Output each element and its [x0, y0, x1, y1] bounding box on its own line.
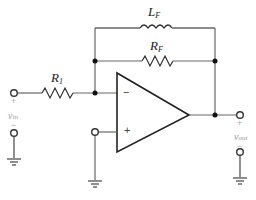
junction-dot: [93, 91, 98, 96]
rf-label: RF: [150, 38, 163, 54]
r1-label: R1: [51, 70, 63, 86]
noninverting-sign: +: [124, 124, 130, 136]
junction-dot: [93, 59, 98, 64]
inverting-sign: −: [123, 86, 129, 98]
opamp-triangle: [117, 73, 189, 152]
ground-icon: [88, 181, 102, 187]
inductor-lf: [95, 25, 215, 28]
ground-icon: [233, 155, 247, 184]
vout-plus: +: [237, 118, 242, 128]
junction-dot: [213, 59, 218, 64]
resistor-rf: [95, 56, 215, 66]
junction-dot: [213, 113, 218, 118]
ground-icon: [7, 136, 21, 165]
noninverting-terminal: [92, 129, 99, 136]
resistor-r1: [17, 88, 117, 98]
vin-minus: −: [11, 120, 16, 130]
input-minus-terminal: [11, 130, 18, 137]
vout-minus: −: [237, 141, 242, 151]
circuit-schematic: [0, 0, 256, 200]
vin-plus: +: [11, 96, 16, 106]
lf-label: LF: [148, 4, 160, 20]
